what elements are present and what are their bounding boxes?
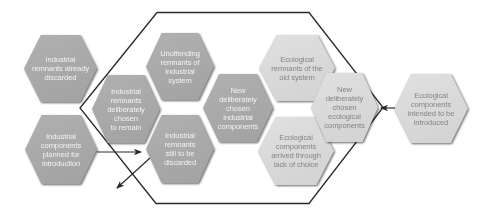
hex-label: Industrial remnants still to be discarde… <box>164 131 196 167</box>
hex-industrial-remnants-already-discarded: Industrial remnants already discarded <box>24 35 97 102</box>
hex-label: Industrial remnants already discarded <box>32 55 89 82</box>
hex-shape: Industrial remnants already discarded <box>24 35 97 102</box>
hex-new-ecological-components: New deliberately chosen ecological compo… <box>311 73 378 142</box>
hex-shape: New deliberately chosen ecological compo… <box>311 73 378 142</box>
hex-shape: Industrial components planned for introd… <box>25 115 97 184</box>
hex-shape: Ecological components intended to be int… <box>394 74 468 143</box>
hex-industrial-components-planned: Industrial components planned for introd… <box>25 115 97 184</box>
hex-label: New deliberately chosen ecological compo… <box>324 85 364 130</box>
hex-label: Ecological components intended to be int… <box>408 91 455 127</box>
hex-label: Unoffending remnants of industrial syste… <box>160 49 200 85</box>
hex-label: New deliberately chosen industrial compo… <box>218 86 258 131</box>
hex-label: Industrial remnants deliberately chosen … <box>107 87 145 132</box>
hex-label: Industrial components planned for introd… <box>41 132 81 168</box>
hex-ecological-components-intended: Ecological components intended to be int… <box>394 74 468 143</box>
system-transition-diagram: Industrial remnants already discarded In… <box>0 0 480 217</box>
